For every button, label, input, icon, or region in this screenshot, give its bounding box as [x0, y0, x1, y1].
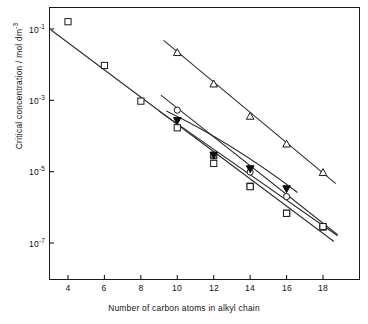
data-point: [320, 223, 326, 229]
data-layer: [0, 0, 368, 324]
data-markers: [65, 19, 327, 231]
data-point: [65, 19, 71, 25]
data-point: [101, 62, 107, 68]
data-point: [138, 98, 144, 104]
figure-container: 10-1 10-3 10-5 10-7 4 6 8 10 12 14 16 18…: [0, 0, 368, 324]
data-point: [211, 160, 217, 166]
trend-lines: [51, 30, 338, 242]
data-point: [283, 193, 289, 199]
data-point: [283, 210, 289, 216]
data-point: [283, 186, 291, 193]
axis-ticks: [49, 29, 323, 280]
data-point: [210, 80, 218, 87]
data-point: [246, 112, 254, 119]
data-point: [173, 118, 181, 125]
data-point: [247, 184, 253, 190]
data-point: [174, 125, 180, 131]
data-point: [319, 169, 327, 176]
data-point: [174, 107, 180, 113]
